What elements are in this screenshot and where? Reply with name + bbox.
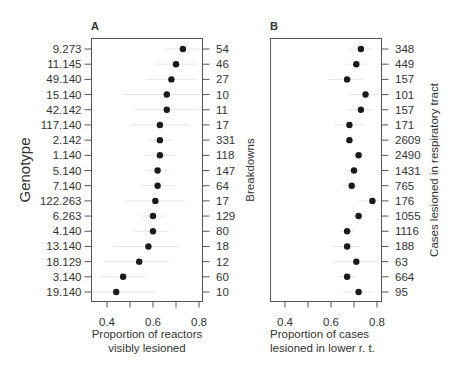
genotype-label: 6.263: [53, 210, 82, 222]
count-label: 101: [395, 89, 414, 101]
count-label: 331: [216, 134, 235, 146]
data-point: [362, 91, 368, 97]
count-label: 63: [395, 256, 408, 268]
count-label: 27: [216, 73, 229, 85]
genotype-label: 11.145: [47, 58, 81, 70]
genotype-label: 5.140: [53, 165, 82, 177]
count-label: 17: [216, 119, 229, 131]
data-point: [353, 258, 359, 264]
data-point: [145, 243, 151, 249]
count-label: 64: [216, 180, 229, 192]
panel-b-xlabel-line2: lesioned in lower r. t.: [270, 342, 375, 354]
data-point: [157, 152, 163, 158]
panel-b: B 34844915710115717126092490143176517610…: [270, 20, 440, 354]
genotype-label: 1.140: [53, 149, 82, 161]
data-point: [173, 61, 179, 67]
count-label: 147: [216, 165, 235, 177]
data-point: [344, 76, 350, 82]
genotype-label: 4.140: [53, 225, 82, 237]
count-label: 129: [216, 210, 235, 222]
count-label: 449: [395, 58, 414, 70]
data-point: [154, 167, 160, 173]
data-point: [369, 198, 375, 204]
data-point: [344, 243, 350, 249]
data-point: [351, 167, 357, 173]
panel-a-ci-bars: [93, 49, 202, 292]
panel-a-genotype-axis: 9.27311.14549.14015.14042.142117.1402.14…: [40, 43, 92, 298]
data-point: [180, 46, 186, 52]
data-point: [164, 91, 170, 97]
count-label: 11: [216, 104, 228, 116]
count-label: 157: [395, 104, 414, 116]
count-label: 95: [395, 286, 408, 298]
data-point: [346, 137, 352, 143]
panel-a-right-ylabel: Breakdowns: [244, 138, 256, 202]
genotype-label: 19.140: [46, 286, 81, 298]
x-tick-label: 0.6: [145, 316, 161, 328]
count-label: 80: [216, 225, 229, 237]
data-point: [136, 258, 142, 264]
count-label: 176: [395, 195, 414, 207]
panel-b-letter: B: [270, 20, 278, 32]
count-label: 765: [395, 180, 414, 192]
panel-b-xlabel-line1: Proportion of cases: [270, 328, 369, 340]
count-label: 1116: [395, 225, 419, 237]
count-label: 1055: [395, 210, 421, 222]
data-point: [168, 76, 174, 82]
data-point: [157, 137, 163, 143]
genotype-label: 122.263: [40, 195, 82, 207]
count-label: 2609: [395, 134, 421, 146]
data-point: [113, 289, 119, 295]
panel-b-right-ylabel: Cases lesioned in respiratory tract: [428, 82, 440, 257]
genotype-label: 13.140: [46, 240, 81, 252]
genotype-label: 18.129: [46, 256, 81, 268]
data-point: [355, 289, 361, 295]
data-point: [358, 46, 364, 52]
count-label: 1431: [395, 165, 421, 177]
count-label: 2490: [395, 149, 421, 161]
data-point: [344, 274, 350, 280]
count-label: 60: [216, 271, 229, 283]
data-point: [157, 122, 163, 128]
genotype-label: 49.140: [46, 73, 81, 85]
data-point: [344, 228, 350, 234]
data-point: [164, 107, 170, 113]
data-point: [358, 107, 364, 113]
genotype-label: 2.142: [53, 134, 82, 146]
count-label: 46: [216, 58, 229, 70]
count-label: 12: [216, 256, 229, 268]
count-label: 17: [216, 195, 229, 207]
genotype-label: 15.140: [46, 89, 81, 101]
genotype-label: 7.140: [53, 180, 82, 192]
figure: A 9.27311.14549.14015.14042.142117.1402.…: [0, 0, 455, 369]
data-point: [349, 182, 355, 188]
count-label: 54: [216, 43, 229, 55]
panel-a: A 9.27311.14549.14015.14042.142117.1402.…: [16, 20, 256, 354]
data-point: [154, 182, 160, 188]
panel-a-xlabel-line1: Proportion of reactors: [92, 328, 203, 340]
data-point: [152, 198, 158, 204]
panel-a-letter: A: [91, 20, 99, 32]
count-label: 157: [395, 73, 414, 85]
panel-b-cases-axis: 3484491571011571712609249014317651761055…: [382, 43, 421, 298]
data-point: [355, 152, 361, 158]
count-label: 664: [395, 271, 415, 283]
data-point: [150, 228, 156, 234]
x-tick-label: 0.8: [369, 316, 385, 328]
count-label: 118: [216, 149, 234, 161]
count-label: 348: [395, 43, 414, 55]
panel-b-x-axis: 0.40.60.8: [277, 302, 385, 328]
count-label: 188: [395, 240, 414, 252]
count-label: 10: [216, 286, 229, 298]
panel-a-xlabel-line2: visibly lesioned: [108, 342, 185, 354]
data-point: [120, 274, 126, 280]
genotype-label: 42.142: [46, 104, 81, 116]
genotype-label: 9.273: [53, 43, 82, 55]
data-point: [150, 213, 156, 219]
data-point: [353, 61, 359, 67]
x-tick-label: 0.8: [191, 316, 207, 328]
count-label: 171: [395, 119, 414, 131]
x-tick-label: 0.4: [99, 316, 116, 328]
data-point: [355, 213, 361, 219]
genotype-label: 117.140: [41, 119, 82, 131]
